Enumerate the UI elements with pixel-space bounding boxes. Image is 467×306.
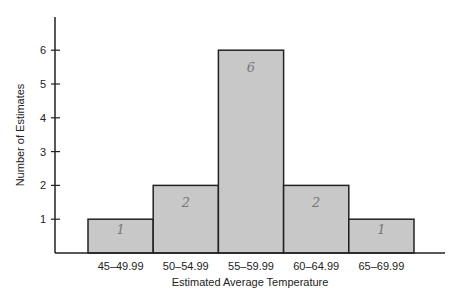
bar-handwritten-label: 6 — [247, 60, 255, 75]
x-tick-labels: 45–49.9950–54.9955–59.9960–64.9965–69.99 — [98, 260, 405, 272]
x-tick-label: 65–69.99 — [358, 260, 404, 272]
x-tick-label: 60–64.99 — [293, 260, 339, 272]
y-tick-label: 3 — [40, 146, 46, 158]
y-ticks: 123456 — [40, 44, 60, 225]
bar — [218, 50, 283, 253]
bar-handwritten-label: 2 — [311, 195, 320, 210]
y-axis-title: Number of Estimates — [14, 83, 26, 186]
y-tick-label: 2 — [40, 179, 46, 191]
x-tick-label: 45–49.99 — [98, 260, 144, 272]
bar-handwritten-label: 2 — [181, 195, 190, 210]
bars: 12621 — [88, 50, 414, 253]
histogram-chart: 12621 123456 45–49.9950–54.9955–59.9960–… — [0, 0, 467, 306]
bar-handwritten-label: 1 — [116, 222, 124, 237]
x-tick-label: 50–54.99 — [163, 260, 209, 272]
y-tick-label: 4 — [40, 112, 46, 124]
bar-handwritten-label: 1 — [377, 222, 385, 237]
y-tick-label: 1 — [40, 213, 46, 225]
x-axis-title: Estimated Average Temperature — [172, 276, 329, 288]
y-tick-label: 5 — [40, 78, 46, 90]
y-tick-label: 6 — [40, 44, 46, 56]
x-tick-label: 55–59.99 — [228, 260, 274, 272]
